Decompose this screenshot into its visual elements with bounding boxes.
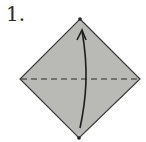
bottom-corner-dot [77,136,81,140]
top-corner-dot [78,17,82,21]
origami-diagram [0,0,146,142]
